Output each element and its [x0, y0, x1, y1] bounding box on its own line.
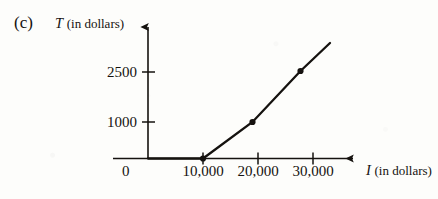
figure-panel: (c) T (in dollars) I (in dollars) 2500 1…	[0, 0, 438, 199]
x-tick-label-30000: 30,000	[292, 164, 333, 179]
x-tick-label-20000: 20,000	[237, 164, 278, 179]
y-axis-title: T (in dollars)	[55, 16, 124, 31]
part-label: (c)	[14, 14, 33, 31]
x-tick-label-10000: 10,000	[182, 164, 223, 179]
origin-label: 0	[122, 164, 130, 179]
x-axis-unit: (in dollars)	[374, 163, 431, 178]
tax-function-curve	[148, 43, 330, 159]
y-axis-variable: T	[55, 15, 63, 31]
y-tick-label-1000: 1000	[92, 115, 137, 130]
x-axis-title: I (in dollars)	[366, 163, 432, 178]
y-tick-label-2500: 2500	[92, 65, 137, 80]
data-point-20000	[249, 119, 255, 125]
data-point-10000	[200, 155, 206, 161]
data-point-30000	[297, 68, 303, 74]
y-axis-unit: (in dollars)	[67, 16, 124, 31]
